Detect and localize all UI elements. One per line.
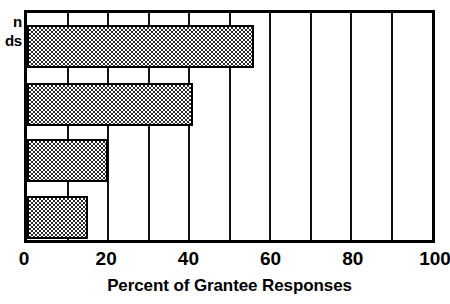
x-axis-title: Percent of Grantee Responses — [24, 276, 435, 296]
plot-frame — [24, 10, 435, 243]
x-tick-label: 0 — [19, 248, 30, 270]
plot-area — [27, 13, 432, 240]
bar — [27, 25, 254, 68]
bar — [27, 83, 193, 126]
bar — [27, 139, 108, 182]
category-axis-labels: n ds — [0, 12, 22, 50]
gridline — [350, 13, 352, 240]
x-tick-label: 80 — [342, 248, 363, 270]
bar — [27, 196, 88, 239]
gridline — [269, 13, 271, 240]
x-axis-tick-labels: 020406080100 — [0, 248, 450, 274]
x-tick-label: 20 — [96, 248, 117, 270]
category-label-line-1: n — [0, 12, 22, 31]
horizontal-bar-chart: n ds 020406080100 Percent of Grantee Res… — [0, 0, 450, 304]
x-tick-label: 60 — [260, 248, 281, 270]
gridline — [391, 13, 393, 240]
gridline — [310, 13, 312, 240]
x-tick-label: 100 — [419, 248, 450, 270]
x-tick-label: 40 — [178, 248, 199, 270]
category-label-line-2: ds — [0, 31, 22, 50]
